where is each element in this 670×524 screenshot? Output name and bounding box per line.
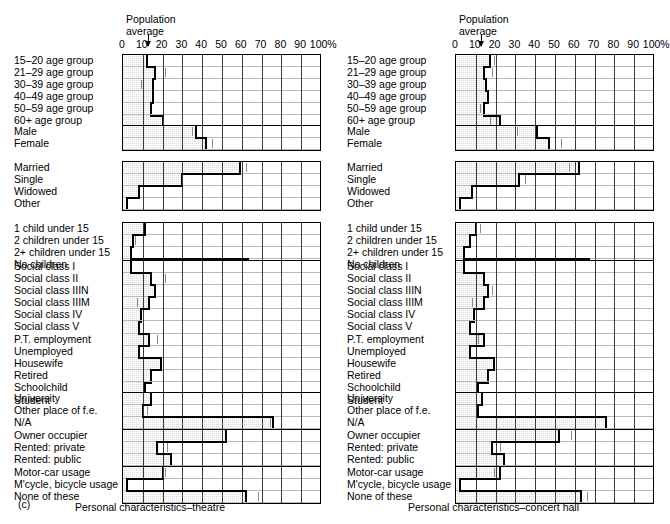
step-edge: [205, 138, 207, 149]
value-bar: [456, 162, 579, 173]
step-edge: [483, 67, 485, 78]
step-connector: [150, 115, 164, 117]
plot-sex: [455, 125, 654, 151]
step-connector: [471, 185, 521, 187]
secondary-marker: [165, 468, 166, 477]
group-housing: Owner occupierRented: privateRented: pub…: [0, 429, 333, 468]
step-edge: [469, 346, 471, 357]
value-bar: [456, 454, 504, 465]
value-bar: [456, 334, 484, 345]
row-label: Unemployed: [14, 345, 129, 357]
row-label: Social class V: [347, 320, 462, 332]
value-bar: [123, 346, 139, 357]
value-bar: [456, 393, 482, 404]
row-label: Male: [347, 125, 462, 137]
plot-social: [455, 260, 654, 408]
table-row: [456, 334, 653, 346]
group-labels-transport: Motor-car usageM'cycle, bicycle usageNon…: [347, 466, 462, 503]
group-labels-age: 15–20 age group21–29 age group30–39 age …: [347, 54, 462, 127]
group-labels-transport: Motor-car usageM'cycle, bicycle usageNon…: [14, 466, 129, 503]
secondary-marker: [192, 127, 193, 136]
axis-tick-label: 50: [215, 38, 227, 50]
panel-concert-hall: Population average0102030405060708090100…: [333, 0, 666, 524]
value-bar: [456, 297, 484, 308]
value-bar: [123, 79, 153, 90]
step-connector: [487, 369, 495, 371]
row-label: 2 children under 15: [347, 234, 462, 246]
secondary-marker: [492, 286, 493, 295]
row-label: 40–49 age group: [347, 90, 462, 102]
axis-tick-label: 40: [195, 38, 207, 50]
secondary-marker: [587, 492, 588, 501]
row-label: Single: [14, 173, 129, 185]
value-bar: [123, 405, 143, 416]
step-connector: [469, 321, 475, 323]
step-edge: [487, 370, 489, 381]
step-connector: [195, 137, 207, 139]
step-edge: [239, 162, 241, 173]
table-row: [456, 297, 653, 309]
row-label: Female: [14, 137, 129, 149]
table-row: [456, 442, 653, 454]
step-edge: [150, 393, 152, 404]
table-row: [123, 198, 320, 210]
row-label: Social class IIIM: [347, 296, 462, 308]
table-row: [456, 417, 653, 429]
value-bar: [456, 138, 549, 149]
row-label: Social class IV: [347, 308, 462, 320]
table-row: [456, 198, 653, 210]
table-row: [123, 297, 320, 309]
table-row: [123, 126, 320, 138]
step-connector: [459, 478, 501, 480]
secondary-marker: [135, 236, 136, 245]
secondary-marker: [167, 443, 168, 452]
value-bar: [456, 126, 537, 137]
value-bar: [456, 91, 488, 102]
step-connector: [156, 441, 227, 443]
table-row: [456, 358, 653, 370]
value-bar: [123, 285, 155, 296]
group-labels-marital: MarriedSingleWidowedOther: [347, 161, 462, 210]
value-bar: [123, 430, 226, 441]
table-row: [456, 393, 653, 405]
secondary-marker: [494, 56, 495, 65]
row-label: Social class V: [14, 320, 129, 332]
group-labels-marital: MarriedSingleWidowedOther: [14, 161, 129, 210]
row-label: M'cycle, bicycle usage: [14, 478, 129, 490]
step-edge: [130, 261, 132, 272]
step-connector: [485, 90, 489, 92]
step-edge: [463, 247, 465, 258]
step-edge: [493, 358, 495, 369]
axis-tick-label: 20: [489, 38, 501, 50]
step-connector: [152, 78, 156, 80]
value-bar: [456, 79, 486, 90]
step-connector: [126, 490, 247, 492]
table-row: [123, 454, 320, 466]
row-label: Rented: public: [14, 453, 129, 465]
axis-tick-label: 70: [588, 38, 600, 50]
value-bar: [123, 126, 196, 137]
row-label: Social class IV: [14, 308, 129, 320]
step-edge: [144, 223, 146, 234]
row-label: P.T. employment: [14, 333, 129, 345]
row-label: Motor-car usage: [347, 466, 462, 478]
step-connector: [536, 137, 550, 139]
row-label: M'cycle, bicycle usage: [347, 478, 462, 490]
step-edge: [483, 334, 485, 345]
step-edge: [491, 442, 493, 453]
secondary-marker: [494, 468, 495, 477]
secondary-marker: [157, 335, 158, 344]
step-connector: [469, 357, 495, 359]
secondary-marker: [492, 68, 493, 77]
row-label: Housewife: [14, 357, 129, 369]
row-label: Retired: [347, 369, 462, 381]
step-edge: [481, 393, 483, 404]
value-bar: [123, 321, 139, 332]
population-average-label: Population average: [459, 14, 509, 37]
row-label: Male: [14, 125, 129, 137]
value-bar: [456, 442, 492, 453]
plot-housing: [122, 429, 321, 468]
step-edge: [150, 370, 152, 381]
step-connector: [477, 416, 608, 418]
step-edge: [580, 491, 582, 502]
